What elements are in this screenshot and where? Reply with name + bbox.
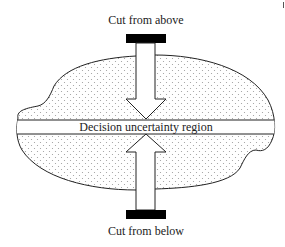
top-label: Cut from above (108, 13, 183, 27)
bottom-bar (126, 210, 166, 219)
bottom-label: Cut from below (108, 224, 184, 238)
center-label: Decision uncertainty region (79, 120, 212, 134)
top-bar (126, 34, 166, 43)
decision-diagram: Cut from above Decision uncertainty regi… (0, 0, 285, 247)
corner-mark (283, 2, 284, 8)
